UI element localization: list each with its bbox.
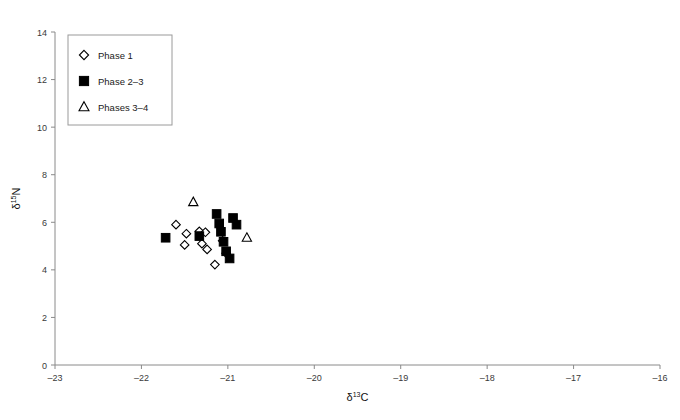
data-point <box>232 220 241 229</box>
axis-titles-layer: δ13Cδ15N <box>10 188 368 403</box>
y-tick-label: 8 <box>42 170 47 180</box>
x-tick-label: –23 <box>47 373 62 383</box>
data-point <box>195 232 204 241</box>
x-tick-label: –18 <box>480 373 495 383</box>
data-point <box>182 229 191 238</box>
data-point <box>161 233 170 242</box>
y-tick-label: 6 <box>42 218 47 228</box>
data-point <box>189 197 198 206</box>
data-point <box>219 237 228 246</box>
data-point <box>172 220 181 229</box>
data-point <box>225 254 234 263</box>
legend-item-label: Phase 1 <box>98 50 133 61</box>
data-point <box>180 241 189 250</box>
y-tick-label: 12 <box>37 75 47 85</box>
chart-legend: Phase 1Phase 2–3Phases 3–4 <box>68 35 172 125</box>
x-tick-label: –19 <box>393 373 408 383</box>
legend-marker-square-filled <box>79 76 88 85</box>
x-tick-label: –21 <box>220 373 235 383</box>
y-tick-label: 14 <box>37 28 47 38</box>
x-tick-label: –22 <box>134 373 149 383</box>
y-tick-label: 4 <box>42 265 47 275</box>
series-2 <box>161 210 240 263</box>
data-point <box>217 228 226 237</box>
x-tick-label: –20 <box>307 373 322 383</box>
y-tick-label: 2 <box>42 313 47 323</box>
x-axis-title: δ13C <box>347 391 369 403</box>
legend-item-label: Phase 2–3 <box>98 76 143 87</box>
legend-item-2[interactable]: Phase 2–3 <box>79 76 143 87</box>
x-tick-label: –16 <box>652 373 667 383</box>
isotope-scatter-chart: –23–22–21–20–19–18–17–1602468101214 Phas… <box>0 0 680 420</box>
data-point <box>242 233 251 242</box>
x-tick-label: –17 <box>566 373 581 383</box>
y-axis-title: δ15N <box>10 188 22 210</box>
data-points-layer <box>161 197 251 269</box>
data-point <box>215 219 224 228</box>
y-tick-label: 10 <box>37 123 47 133</box>
scatter-plot-figure: –23–22–21–20–19–18–17–1602468101214 Phas… <box>0 0 680 420</box>
legend-item-label: Phases 3–4 <box>98 102 148 113</box>
data-point <box>212 210 221 219</box>
y-tick-label: 0 <box>42 361 47 371</box>
data-point <box>211 260 220 269</box>
